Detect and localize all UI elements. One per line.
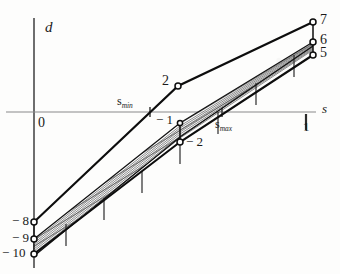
point-label-7: 7 [320,13,327,27]
marker-minus-1 [177,120,182,125]
marker-minus-10 [31,251,37,257]
point-label-minus-1: − 1 [156,113,173,126]
point-label-5: 5 [320,46,327,60]
marker-6 [310,39,316,45]
marker-minus-9 [31,236,37,242]
y-axis-label: d [45,20,53,35]
s-min-label: smin [117,95,133,110]
figure-canvas [0,0,340,274]
lower-boundary-curve [34,55,313,254]
marker-minus-8 [31,219,37,225]
band-edges [34,42,313,256]
upper-boundary-curve [34,22,313,222]
point-label-2: 2 [162,74,169,88]
marker-minus-2 [177,139,183,145]
point-label-minus-2: − 2 [186,135,203,148]
marker-2 [175,83,181,89]
marker-7 [310,19,316,25]
origin-label: 0 [38,116,45,130]
x-unit-label: 1 [303,120,310,133]
s-max-sub: max [220,124,232,133]
point-label-minus-8: − 8 [12,214,29,227]
marker-5 [310,52,316,58]
point-label-minus-9: − 9 [12,231,29,244]
s-max-label: smax [215,118,232,133]
s-min-sub: min [122,101,133,110]
point-label-minus-10: − 10 [2,246,26,259]
x-axis-label: s [322,102,327,115]
